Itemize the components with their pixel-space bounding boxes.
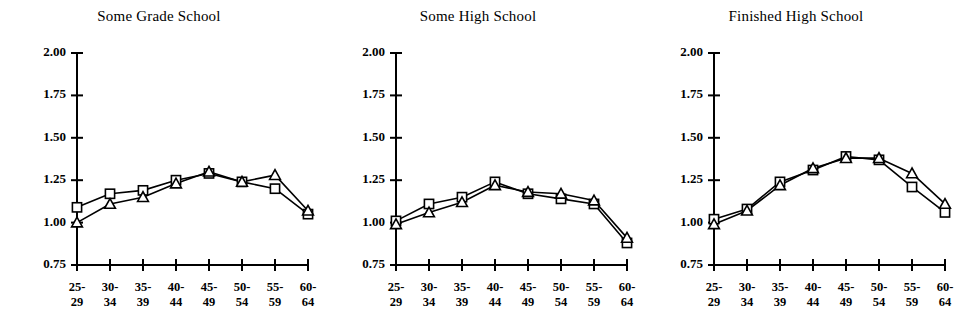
y-axis-tick-label: 2.00 xyxy=(680,44,703,59)
y-axis-tick-label: 0.75 xyxy=(680,256,703,271)
data-point-square-marker xyxy=(72,203,81,212)
y-axis-tick-label: 0.75 xyxy=(43,256,66,271)
x-axis-tick-label: 55-59 xyxy=(267,280,284,309)
panel-finished-high-school: Finished High School 2.001.751.501.251.0… xyxy=(637,0,955,332)
y-axis-tick-label: 1.25 xyxy=(680,171,703,186)
x-axis-tick-label: 45-49 xyxy=(838,280,855,309)
x-axis-tick-label: 60-64 xyxy=(619,280,636,309)
y-axis-tick-label: 1.00 xyxy=(362,214,385,229)
y-axis-tick-label: 1.50 xyxy=(362,129,385,144)
plot-area: 2.001.751.501.251.000.7525-2930-3435-394… xyxy=(319,0,637,332)
y-axis-tick-label: 1.50 xyxy=(680,129,703,144)
x-axis-tick-label: 45-49 xyxy=(201,280,218,309)
y-axis-tick-label: 2.00 xyxy=(43,44,66,59)
y-axis-tick-label: 1.75 xyxy=(43,86,66,101)
x-axis-tick-label: 25-29 xyxy=(706,280,723,309)
y-axis-tick-label: 1.75 xyxy=(362,86,385,101)
x-axis-tick-label: 30-34 xyxy=(102,280,119,309)
y-axis-tick-label: 1.75 xyxy=(680,86,703,101)
x-axis-tick-label: 35-39 xyxy=(772,280,789,309)
three-panel-line-chart-figure: Some Grade School 2.001.751.501.251.000.… xyxy=(0,0,955,332)
x-axis-tick-label: 50-54 xyxy=(553,280,570,309)
y-axis-tick-label: 1.25 xyxy=(362,171,385,186)
x-axis-tick-label: 55-59 xyxy=(586,280,603,309)
data-point-square-marker xyxy=(907,182,916,191)
x-axis-tick-label: 35-39 xyxy=(135,280,152,309)
data-point-square-marker xyxy=(940,208,949,217)
y-axis-tick-label: 2.00 xyxy=(362,44,385,59)
y-axis-tick-label: 1.00 xyxy=(680,214,703,229)
data-point-triangle-marker xyxy=(270,170,281,180)
x-axis-tick-label: 35-39 xyxy=(454,280,471,309)
x-axis-tick-label: 25-29 xyxy=(388,280,405,309)
panel-some-high-school: Some High School 2.001.751.501.251.000.7… xyxy=(319,0,637,332)
x-axis-tick-label: 60-64 xyxy=(937,280,954,309)
data-point-triangle-marker xyxy=(907,168,918,178)
data-point-square-marker xyxy=(270,184,279,193)
plot-area: 2.001.751.501.251.000.7525-2930-3435-394… xyxy=(0,0,318,332)
y-axis-tick-label: 1.00 xyxy=(43,214,66,229)
x-axis-tick-label: 40-44 xyxy=(487,280,504,309)
x-axis-tick-label: 40-44 xyxy=(805,280,822,309)
y-axis-tick-label: 1.50 xyxy=(43,129,66,144)
panel-some-grade-school: Some Grade School 2.001.751.501.251.000.… xyxy=(0,0,318,332)
x-axis-tick-label: 30-34 xyxy=(421,280,438,309)
y-axis-tick-label: 1.25 xyxy=(43,171,66,186)
x-axis-tick-label: 30-34 xyxy=(739,280,756,309)
x-axis-tick-label: 50-54 xyxy=(234,280,251,309)
plot-area: 2.001.751.501.251.000.7525-2930-3435-394… xyxy=(637,0,955,332)
x-axis-tick-label: 45-49 xyxy=(520,280,537,309)
x-axis-tick-label: 25-29 xyxy=(69,280,86,309)
x-axis-tick-label: 40-44 xyxy=(168,280,185,309)
y-axis-tick-label: 0.75 xyxy=(362,256,385,271)
x-axis-tick-label: 50-54 xyxy=(871,280,888,309)
x-axis-tick-label: 55-59 xyxy=(904,280,921,309)
x-axis-tick-label: 60-64 xyxy=(300,280,317,309)
